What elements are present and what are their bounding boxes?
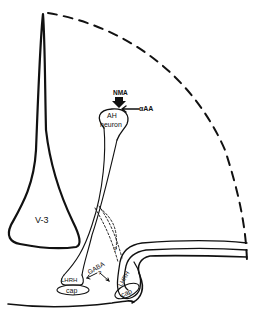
alpha-aa-arrow-icon bbox=[122, 106, 139, 112]
cap-left-label: cap bbox=[66, 287, 77, 295]
alpha-aa-label: αAA bbox=[139, 105, 153, 112]
dotted-projection-2 bbox=[99, 206, 122, 258]
question-top-label: ? bbox=[113, 246, 117, 253]
ah-label: AH bbox=[107, 112, 117, 119]
lhrh-left-label: LHRH bbox=[61, 277, 77, 283]
dashed-boundary-arc bbox=[48, 13, 247, 262]
bottom-outline bbox=[8, 301, 134, 307]
neuron-label: neuron bbox=[100, 121, 122, 128]
third-ventricle-outline bbox=[9, 14, 80, 248]
nma-label: NMA bbox=[113, 89, 128, 96]
dotted-projection-3 bbox=[100, 208, 116, 250]
nma-arrow-icon bbox=[112, 97, 126, 108]
neuroanatomy-diagram: V-3 AH neuron ? LHRH cap GABA ? LHRH cap… bbox=[0, 0, 254, 316]
median-eminence-lower-edge bbox=[132, 256, 247, 303]
gaba-arrow-right bbox=[100, 273, 109, 281]
axon-left-outer bbox=[64, 128, 105, 275]
v3-label: V-3 bbox=[35, 215, 49, 225]
